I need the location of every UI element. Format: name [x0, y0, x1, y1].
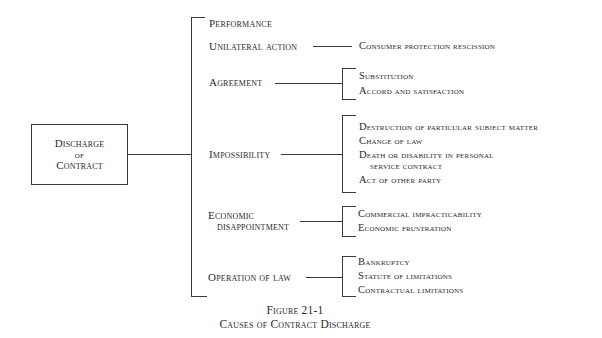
connector-economic: [300, 221, 342, 222]
bracket-economic-bottom: [342, 236, 356, 237]
leaf-bankruptcy: Bankruptcy: [358, 256, 410, 268]
leaf-destruction-of-subject-matter: Destruction of particular subject matter: [359, 121, 538, 133]
leaf-economic-frustration: Economic frustration: [358, 222, 452, 234]
leaf-statute-of-limitations: Statute of limitations: [358, 270, 452, 282]
figure-number: Figure 21-1: [145, 303, 445, 317]
bracket-impossibility-top: [342, 115, 356, 116]
main-bracket-top: [191, 17, 205, 18]
root-line-1: Discharge: [32, 138, 127, 149]
bracket-agreement-top: [342, 68, 356, 69]
bracket-agreement-vertical: [342, 68, 343, 100]
branch-economic-disappointment-line2: disappointment: [217, 220, 289, 232]
leaf-substitution: Substitution: [359, 70, 414, 82]
bracket-operation-vertical: [342, 256, 343, 297]
connector-root: [127, 154, 191, 155]
root-node-discharge-of-contract: Discharge of Contract: [31, 124, 128, 185]
bracket-impossibility-bottom: [342, 192, 356, 193]
leaf-act-of-other-party: Act of other party: [359, 174, 441, 186]
connector-operation-of-law: [306, 277, 342, 278]
branch-operation-of-law: Operation of law: [208, 271, 291, 283]
connector-unilateral: [313, 46, 352, 47]
branch-agreement: Agreement: [209, 76, 262, 88]
bracket-operation-bottom: [342, 296, 356, 297]
bracket-operation-top: [342, 256, 356, 257]
connector-agreement: [275, 83, 342, 84]
leaf-commercial-impracticability: Commercial impracticability: [358, 208, 482, 220]
main-bracket-bottom: [191, 296, 207, 297]
branch-impossibility: Impossibility: [209, 148, 270, 160]
branch-performance: Performance: [209, 17, 272, 29]
bracket-impossibility-vertical: [342, 115, 343, 193]
leaf-contractual-limitations: Contractual limitations: [358, 284, 463, 296]
main-bracket-vertical: [191, 17, 192, 297]
leaf-consumer-protection-rescission: Consumer protection rescission: [359, 40, 495, 52]
branch-unilateral-action: Unilateral action: [209, 40, 297, 52]
bracket-economic-vertical: [342, 206, 343, 237]
figure-title: Causes of Contract Discharge: [145, 317, 445, 331]
leaf-change-of-law: Change of law: [359, 135, 423, 147]
bracket-agreement-bottom: [342, 99, 356, 100]
bracket-economic-top: [342, 206, 356, 207]
leaf-death-or-disability-cont: service contract: [370, 160, 442, 172]
connector-impossibility: [281, 154, 342, 155]
root-line-3: Contract: [32, 160, 127, 171]
leaf-accord-and-satisfaction: Accord and satisfaction: [359, 85, 464, 97]
